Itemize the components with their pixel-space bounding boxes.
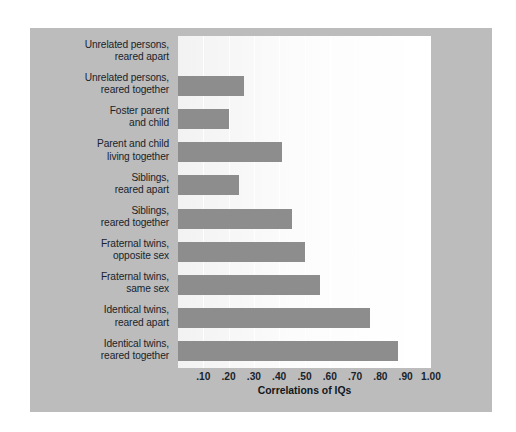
- figure: Unrelated persons,reared apartUnrelated …: [0, 0, 516, 432]
- category-label: Fraternal twins,same sex: [30, 268, 176, 298]
- category-label-line: reared apart: [115, 184, 169, 196]
- gridline: [380, 36, 381, 368]
- category-label: Fraternal twins,opposite sex: [30, 235, 176, 265]
- bar: [178, 142, 282, 162]
- category-label-line: reared together: [101, 217, 169, 229]
- bar-chart: Unrelated persons,reared apartUnrelated …: [30, 28, 492, 412]
- category-label-line: Parent and child: [97, 138, 169, 150]
- x-tick-label: 1.00: [421, 370, 441, 384]
- x-tick-label: .80: [373, 370, 387, 384]
- bar: [178, 109, 229, 129]
- category-label-line: Unrelated persons,: [85, 72, 169, 84]
- bar: [178, 308, 370, 328]
- category-label: Siblings,reared together: [30, 202, 176, 232]
- category-label-line: living together: [107, 151, 169, 163]
- category-label-line: Unrelated persons,: [85, 39, 169, 51]
- category-label: Foster parentand child: [30, 102, 176, 132]
- category-label-line: same sex: [126, 283, 169, 295]
- category-label-line: Siblings,: [131, 172, 169, 184]
- category-label-line: reared together: [101, 350, 169, 362]
- category-label-line: Foster parent: [110, 105, 169, 117]
- category-label-line: and child: [129, 117, 169, 129]
- chart-panel: Unrelated persons,reared apartUnrelated …: [30, 28, 492, 412]
- bar: [178, 76, 244, 96]
- x-axis-label: Correlations of IQs: [178, 385, 431, 396]
- category-label-line: Fraternal twins,: [101, 238, 169, 250]
- x-axis-ticks: .10.20.30.40.50.60.70.80.901.00: [178, 370, 431, 386]
- category-label: Parent and childliving together: [30, 136, 176, 166]
- x-tick-label: .50: [297, 370, 311, 384]
- x-tick-label: .30: [247, 370, 261, 384]
- bar: [178, 341, 398, 361]
- category-label: Identical twins,reared together: [30, 335, 176, 365]
- x-tick-label: .10: [196, 370, 210, 384]
- bar: [178, 209, 292, 229]
- plot-area: [178, 36, 431, 368]
- category-label-line: reared together: [101, 84, 169, 96]
- x-tick-label: .60: [323, 370, 337, 384]
- bar: [178, 242, 305, 262]
- gridline: [406, 36, 407, 368]
- category-label: Unrelated persons,reared together: [30, 69, 176, 99]
- category-label-line: reared apart: [115, 51, 169, 63]
- x-tick-label: .70: [348, 370, 362, 384]
- category-label-line: opposite sex: [113, 250, 169, 262]
- category-label-line: reared apart: [115, 317, 169, 329]
- bar: [178, 275, 320, 295]
- category-label: Identical twins,reared apart: [30, 302, 176, 332]
- category-label-line: Identical twins,: [104, 304, 169, 316]
- bar: [178, 175, 239, 195]
- x-tick-label: .90: [399, 370, 413, 384]
- category-axis: Unrelated persons,reared apartUnrelated …: [30, 36, 176, 368]
- x-tick-label: .40: [272, 370, 286, 384]
- category-label: Siblings,reared apart: [30, 169, 176, 199]
- category-label-line: Siblings,: [131, 205, 169, 217]
- category-label-line: Fraternal twins,: [101, 271, 169, 283]
- category-label: Unrelated persons,reared apart: [30, 36, 176, 66]
- category-label-line: Identical twins,: [104, 338, 169, 350]
- x-tick-label: .20: [222, 370, 236, 384]
